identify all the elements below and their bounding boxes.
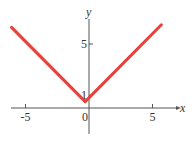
- x-tick-label: 0: [82, 110, 88, 124]
- chart: x y -50515: [0, 0, 194, 144]
- y-axis-label: y: [85, 5, 92, 19]
- x-tick-label: -5: [21, 110, 31, 124]
- x-axis-label: x: [179, 101, 186, 115]
- x-tick-label: 5: [150, 110, 156, 124]
- y-tick-label: 5: [81, 37, 87, 51]
